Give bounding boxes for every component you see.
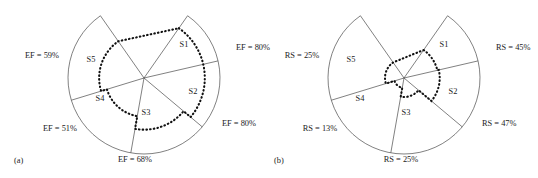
sector-divider-line [331, 78, 404, 100]
sector-divider-line [144, 78, 202, 127]
value-label-RS-S2: RS = 47% [482, 119, 517, 128]
sector-divider-line [404, 78, 462, 127]
value-curve-RS [385, 50, 440, 101]
panel-b: S1RS = 45%S2RS = 47%S3RS = 25%S4RS = 13%… [274, 16, 531, 165]
figure-root: S1EF = 80%S2EF = 80%S3EF = 68%S4EF = 51%… [0, 0, 538, 178]
panel-a: S1EF = 80%S2EF = 80%S3EF = 68%S4EF = 51%… [14, 16, 270, 165]
value-label-EF-S3: EF = 68% [118, 155, 152, 164]
sector-label-S2: S2 [189, 87, 198, 96]
value-label-RS-S1: RS = 45% [496, 43, 531, 52]
panel-caption-1: (b) [274, 156, 284, 165]
value-label-RS-S4: RS = 13% [303, 124, 338, 133]
outer-arc [328, 16, 480, 154]
value-label-RS-S3: RS = 25% [384, 155, 419, 164]
sector-label-S3: S3 [142, 108, 151, 117]
sector-label-S1: S1 [440, 40, 449, 49]
value-label-EF-S4: EF = 51% [43, 124, 77, 133]
panel-caption-0: (a) [14, 156, 24, 165]
sector-divider-line [360, 16, 404, 78]
sector-divider-line [404, 61, 478, 78]
value-label-EF-S1: EF = 80% [236, 43, 270, 52]
value-curve-EF [99, 28, 205, 129]
radar-sector-figure: S1EF = 80%S2EF = 80%S3EF = 68%S4EF = 51%… [0, 0, 538, 178]
sector-label-S4: S4 [356, 94, 366, 103]
sector-label-S2: S2 [449, 87, 458, 96]
sector-label-S1: S1 [180, 40, 189, 49]
sector-divider-line [100, 16, 144, 78]
value-label-EF-S5: EF = 59% [25, 51, 59, 60]
sector-label-S5: S5 [87, 55, 96, 64]
sector-label-S4: S4 [96, 94, 106, 103]
sector-divider-line [144, 61, 218, 78]
sector-label-S3: S3 [402, 108, 411, 117]
value-label-EF-S2: EF = 80% [222, 119, 256, 128]
sector-label-S5: S5 [347, 55, 356, 64]
value-label-RS-S5: RS = 25% [285, 51, 320, 60]
